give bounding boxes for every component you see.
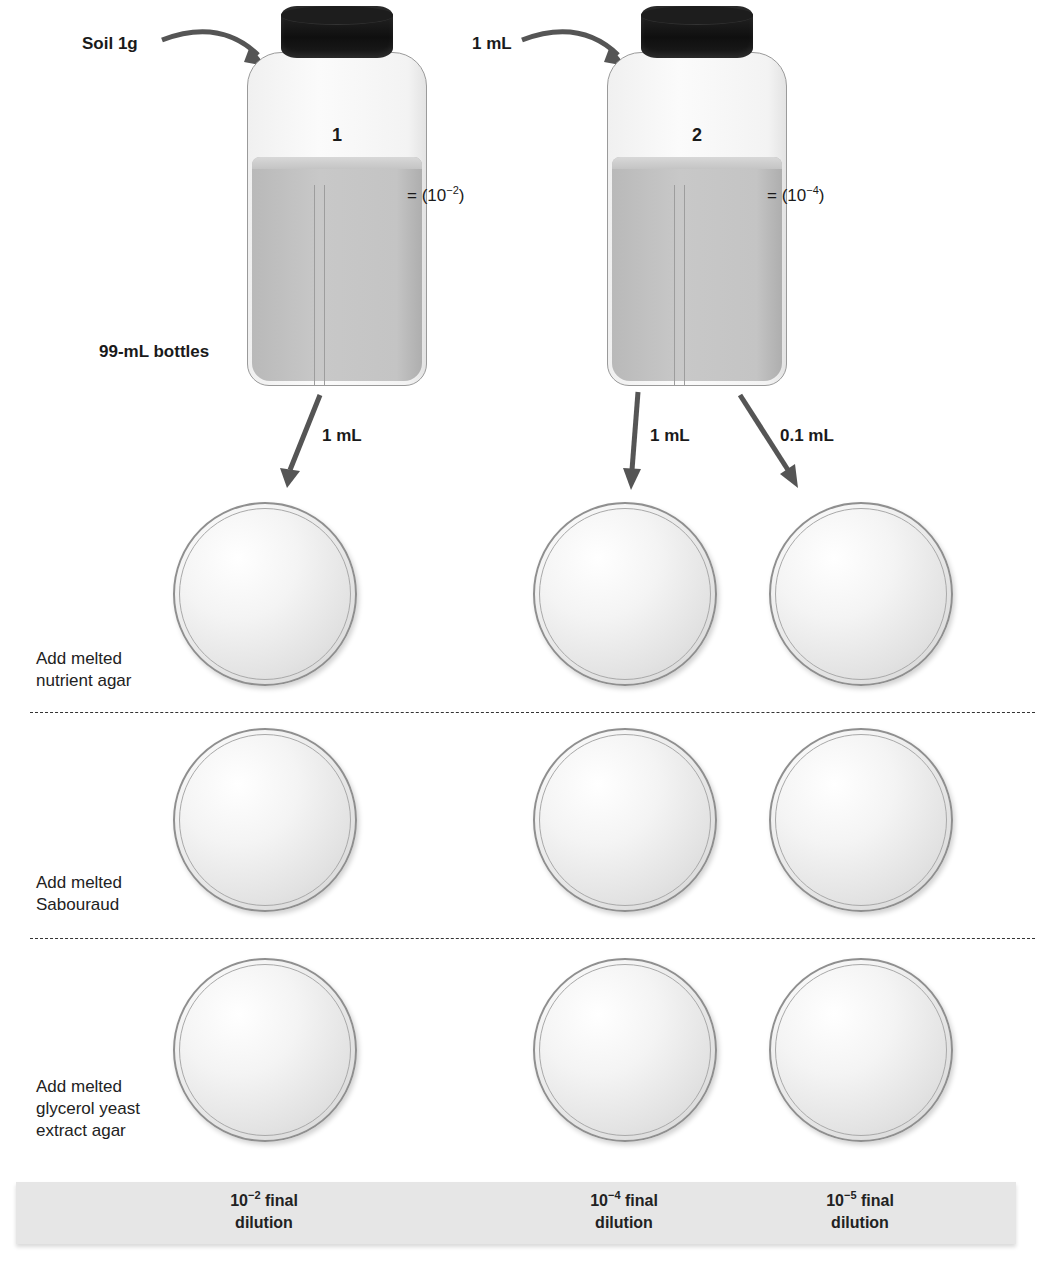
- petri-dish-sabouraud-1e-5: [769, 728, 953, 912]
- bottle1-dilution-label: = (10−2): [407, 186, 464, 206]
- transfer-input-label: 1 mL: [472, 34, 512, 54]
- transfer-arrows: [0, 0, 1040, 500]
- row-label-line: Add melted: [36, 872, 122, 894]
- bottle2-to-plate-1ml-arrow: [632, 392, 638, 470]
- row-label-line: Add melted: [36, 1076, 140, 1098]
- dilution-exponent: −4: [608, 1189, 621, 1201]
- dilution-prefix: = (10: [407, 186, 446, 205]
- final-dilution-band: 10−2 final dilution 10−4 final dilution …: [16, 1182, 1016, 1244]
- bottle-cap-icon: [641, 6, 753, 58]
- bottle-tube: [674, 185, 685, 385]
- bottle-body: 2: [607, 52, 787, 386]
- soil-input-label: Soil 1g: [82, 34, 138, 54]
- bottle-liquid: [612, 157, 782, 381]
- dilution-exponent: −4: [806, 184, 819, 196]
- dilution-suffix: final: [261, 1192, 298, 1209]
- bottle-tube: [314, 185, 325, 385]
- row-label-nutrient-agar: Add melted nutrient agar: [36, 648, 131, 692]
- row-label-line: Sabouraud: [36, 894, 122, 916]
- row-label-line: glycerol yeast: [36, 1098, 140, 1120]
- dilution-base: 10: [230, 1192, 248, 1209]
- final-dilution-1e-2: 10−2 final dilution: [204, 1190, 324, 1234]
- row-divider: [30, 938, 1035, 939]
- petri-dish-nutrient-1e-2: [173, 502, 357, 686]
- petri-dish-glycerol-1e-4: [533, 958, 717, 1142]
- dilution-base: 10: [826, 1192, 844, 1209]
- transfer-label-1: 1 mL: [322, 426, 362, 446]
- petri-dish-glycerol-1e-5: [769, 958, 953, 1142]
- bottle2-dilution-label: = (10−4): [767, 186, 824, 206]
- dilution-exponent: −5: [844, 1189, 857, 1201]
- dilution-suffix: final: [621, 1192, 658, 1209]
- transfer-label-3: 0.1 mL: [780, 426, 834, 446]
- bottle-liquid: [252, 157, 422, 381]
- dilution-suffix: ): [819, 186, 825, 205]
- petri-dish-sabouraud-1e-2: [173, 728, 357, 912]
- dilution-base: 10: [590, 1192, 608, 1209]
- row-label-sabouraud: Add melted Sabouraud: [36, 872, 122, 916]
- dilution-suffix: final: [857, 1192, 894, 1209]
- petri-dish-nutrient-1e-5: [769, 502, 953, 686]
- row-label-line: Add melted: [36, 648, 131, 670]
- bottle-number: 1: [248, 125, 426, 146]
- dilution-suffix: ): [459, 186, 465, 205]
- dilution-bottle-1: 1: [247, 6, 427, 386]
- row-label-glycerol-yeast: Add melted glycerol yeast extract agar: [36, 1076, 140, 1142]
- bottle-number: 2: [608, 125, 786, 146]
- petri-dish-nutrient-1e-4: [533, 502, 717, 686]
- dilution-exponent: −2: [248, 1189, 261, 1201]
- transfer-label-2: 1 mL: [650, 426, 690, 446]
- bottle1-to-bottle2-arrow: [522, 32, 618, 55]
- final-dilution-1e-4: 10−4 final dilution: [564, 1190, 684, 1234]
- row-label-line: nutrient agar: [36, 670, 131, 692]
- petri-dish-glycerol-1e-2: [173, 958, 357, 1142]
- bottle-cap-icon: [281, 6, 393, 58]
- bottle-body: 1: [247, 52, 427, 386]
- dilution-bottle-2: 2: [607, 6, 787, 386]
- petri-dish-sabouraud-1e-4: [533, 728, 717, 912]
- dilution-word: dilution: [564, 1212, 684, 1234]
- dilution-exponent: −2: [446, 184, 459, 196]
- bottle1-to-plate-arrow: [290, 395, 320, 470]
- dilution-word: dilution: [204, 1212, 324, 1234]
- row-divider: [30, 712, 1035, 713]
- dilution-word: dilution: [800, 1212, 920, 1234]
- row-label-line: extract agar: [36, 1120, 140, 1142]
- bottle-size-label: 99-mL bottles: [99, 342, 209, 362]
- final-dilution-1e-5: 10−5 final dilution: [800, 1190, 920, 1234]
- soil-to-bottle1-arrow: [162, 32, 258, 55]
- dilution-prefix: = (10: [767, 186, 806, 205]
